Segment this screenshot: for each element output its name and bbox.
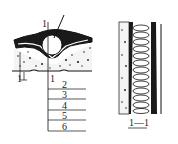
- pipe-circle: [42, 35, 62, 55]
- section-caption: 1—1: [129, 117, 149, 128]
- section-marker-left: 1: [17, 73, 22, 84]
- layer-label-5: 5: [62, 110, 67, 121]
- coil-pattern: [133, 25, 149, 114]
- layer-label-3: 3: [62, 89, 67, 100]
- layer-leaders: [48, 89, 86, 131]
- diagram-canvas: 1 1 1 2 3 4 5 6 1—1: [0, 0, 178, 144]
- layer-label-6: 6: [62, 121, 67, 132]
- section-marker-bottom: 1: [50, 73, 55, 84]
- ground-line: [12, 70, 92, 71]
- section-view: [119, 22, 161, 128]
- section-marker-top: 1: [42, 18, 47, 29]
